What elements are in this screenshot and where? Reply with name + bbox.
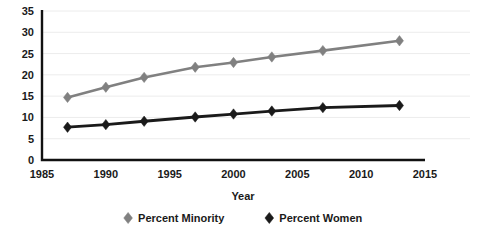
line-chart: 05101520253035 1985199019952000200520102…	[0, 0, 486, 239]
x-tick-label: 2000	[221, 168, 245, 180]
y-tick-label: 15	[22, 90, 34, 102]
legend-item[interactable]: Percent Women	[265, 212, 363, 224]
legend-item[interactable]: Percent Minority	[124, 212, 225, 224]
chart-background	[0, 0, 486, 239]
x-tick-label: 2005	[285, 168, 309, 180]
x-tick-label: 2010	[349, 168, 373, 180]
y-tick-label: 20	[22, 69, 34, 81]
legend-label: Percent Women	[279, 212, 362, 224]
chart-canvas: 05101520253035 1985199019952000200520102…	[0, 0, 486, 239]
x-tick-label: 2015	[413, 168, 437, 180]
x-tick-label: 1985	[30, 168, 54, 180]
y-tick-label: 30	[22, 26, 34, 38]
y-tick-label: 5	[28, 133, 34, 145]
y-tick-label: 25	[22, 48, 34, 60]
y-tick-label: 35	[22, 5, 34, 17]
y-tick-label: 10	[22, 111, 34, 123]
x-tick-label: 1995	[157, 168, 181, 180]
y-tick-label: 0	[28, 154, 34, 166]
x-axis-title: Year	[231, 190, 255, 202]
legend-label: Percent Minority	[138, 212, 225, 224]
x-tick-label: 1990	[94, 168, 118, 180]
